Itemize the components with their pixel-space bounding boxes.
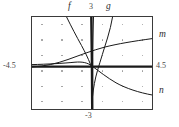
- curve-layer: [0, 0, 179, 127]
- axis-label-y-max: 3: [89, 3, 93, 11]
- curve-label-m: m: [159, 30, 166, 40]
- axis-label-y-min: -3: [85, 112, 92, 120]
- curve-g-path: [93, 17, 113, 96]
- curve-label-f: f: [68, 2, 71, 12]
- graph-figure: f 3 g m n -4.5 4.5 -3: [0, 0, 179, 127]
- axis-label-x-min: -4.5: [3, 62, 16, 70]
- curve-label-g: g: [106, 2, 111, 12]
- curve-label-n: n: [159, 86, 164, 96]
- axis-label-x-max: 4.5: [156, 62, 166, 70]
